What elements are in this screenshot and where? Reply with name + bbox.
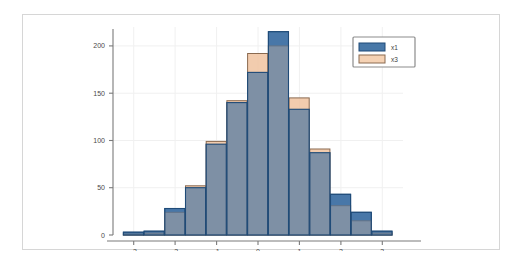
x-tick-label: 0 [256,248,260,251]
bar-x1 [268,32,288,235]
x-tick-label: 1 [297,248,301,251]
x-tick-label: 2 [339,248,343,251]
screenshot-root: 050100150200 -3-2-10123 x1x3 [0,0,522,272]
bar-x1 [206,144,226,235]
y-axis [109,29,113,235]
y-tick-label: 200 [93,42,105,49]
y-tick-label: 150 [93,90,105,97]
bar-x1 [289,109,309,235]
bar-x1 [351,212,371,235]
y-tick-label: 100 [93,137,105,144]
legend-swatch-x1[interactable] [359,43,385,51]
bar-x1 [123,232,143,235]
bar-x1 [372,231,392,235]
y-axis-tick-labels: 050100150200 [93,42,105,238]
x-axis [107,241,421,245]
x-tick-label: 3 [380,248,384,251]
legend-label-x1: x1 [391,44,398,51]
x-axis-tick-labels: -3-2-10123 [131,248,385,251]
chart-legend[interactable]: x1x3 [353,37,415,67]
y-tick-label: 0 [101,232,105,239]
bar-x1 [331,194,351,235]
bar-x1 [165,209,185,236]
legend-swatch-x3[interactable] [359,55,385,63]
bar-x1 [248,72,268,235]
histogram-chart: 050100150200 -3-2-10123 x1x3 [23,15,501,251]
bar-x1 [186,188,206,235]
histogram-plot-area: 050100150200 -3-2-10123 x1x3 [23,15,501,251]
legend-label-x3: x3 [391,56,398,63]
bar-x1 [144,231,164,235]
x-tick-label: -2 [172,248,178,251]
y-tick-label: 50 [97,184,105,191]
figure-frame: 050100150200 -3-2-10123 x1x3 [22,14,500,250]
bar-x1 [310,153,330,235]
x-tick-label: -3 [131,248,137,251]
x-tick-label: -1 [213,248,219,251]
bar-x1 [227,103,247,235]
